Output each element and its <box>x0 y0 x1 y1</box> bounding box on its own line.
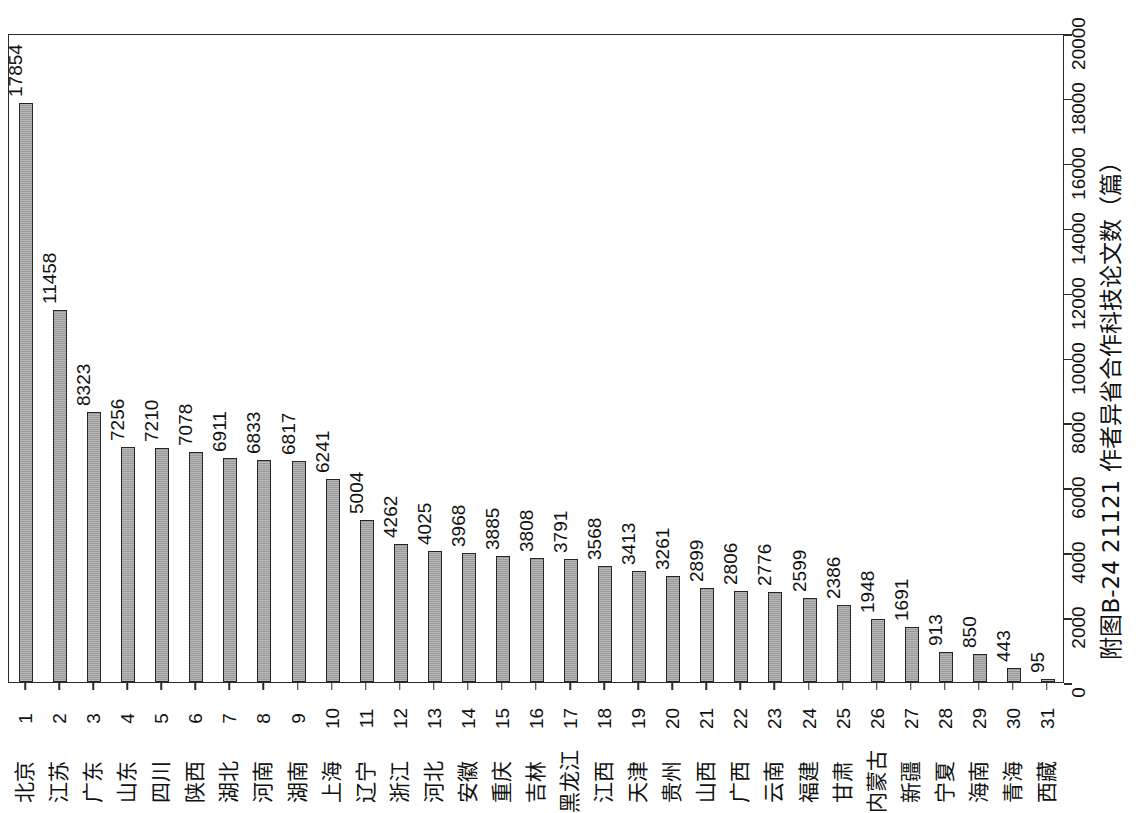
category-tick-group: 19天津 <box>621 683 655 809</box>
bar[interactable] <box>19 103 33 682</box>
bar[interactable] <box>326 479 340 682</box>
category-tick <box>126 683 128 690</box>
category-tick <box>876 683 878 690</box>
bar[interactable] <box>973 654 987 682</box>
category-tick <box>672 683 674 690</box>
category-tick <box>774 683 776 690</box>
category-rank-label: 20 <box>663 708 682 729</box>
category-name-label: 河北 <box>423 761 444 803</box>
bar[interactable] <box>53 310 67 682</box>
category-tick <box>1046 683 1048 690</box>
category-tick <box>467 683 469 690</box>
category-rank-label: 21 <box>697 708 716 729</box>
bar[interactable] <box>394 544 408 682</box>
bar-slot: 95 <box>1031 35 1065 682</box>
bar[interactable] <box>87 412 101 682</box>
bar-slot: 850 <box>963 35 997 682</box>
category-rank-label: 16 <box>526 708 545 729</box>
bar-slot: 3968 <box>452 35 486 682</box>
category-tick-group: 23云南 <box>757 683 791 809</box>
bar-slot: 6911 <box>213 35 247 682</box>
category-tick-group: 14安徽 <box>451 683 485 809</box>
bar[interactable] <box>257 460 271 682</box>
figure-caption: 附图B-24 21121 作者异省合作科技论文数（篇） <box>1086 0 1136 809</box>
category-tick <box>297 683 299 690</box>
value-tick-label: 6000 <box>1069 477 1088 519</box>
value-tick-label: 8000 <box>1069 412 1088 454</box>
category-tick-group: 27新疆 <box>894 683 928 809</box>
bar[interactable] <box>1041 679 1055 682</box>
category-tick-group: 22广西 <box>723 683 757 809</box>
category-rank-label: 12 <box>390 708 409 729</box>
bar[interactable] <box>768 592 782 682</box>
bar[interactable] <box>803 598 817 682</box>
bar[interactable] <box>734 591 748 682</box>
bar-slot: 3885 <box>486 35 520 682</box>
bar[interactable] <box>905 627 919 682</box>
bar-slot: 3808 <box>520 35 554 682</box>
bar-series: 1785411458832372567210707869116833681762… <box>9 35 1063 682</box>
category-name-label: 青海 <box>1002 761 1023 803</box>
category-rank-label: 6 <box>186 713 205 724</box>
category-rank-label: 3 <box>84 713 103 724</box>
category-name-label: 甘肃 <box>832 761 853 803</box>
category-tick <box>603 683 605 690</box>
category-tick <box>706 683 708 690</box>
category-tick <box>92 683 94 690</box>
category-name-label: 宁夏 <box>934 761 955 803</box>
category-name-label: 浙江 <box>389 761 410 803</box>
category-tick <box>842 683 844 690</box>
category-name-label: 江西 <box>594 761 615 803</box>
bar-slot: 2776 <box>758 35 792 682</box>
category-name-label: 四川 <box>151 761 172 803</box>
bar-slot: 2599 <box>792 35 826 682</box>
bar-slot: 3261 <box>656 35 690 682</box>
category-rank-label: 31 <box>1037 708 1056 729</box>
bar[interactable] <box>121 447 135 682</box>
bar[interactable] <box>155 448 169 682</box>
bar[interactable] <box>1007 668 1021 682</box>
bar[interactable] <box>530 558 544 682</box>
bar[interactable] <box>428 551 442 682</box>
category-tick-group: 28宁夏 <box>928 683 962 809</box>
category-rank-label: 28 <box>935 708 954 729</box>
bar[interactable] <box>292 461 306 682</box>
category-tick <box>740 683 742 690</box>
category-name-label: 海南 <box>968 761 989 803</box>
category-tick <box>1012 683 1014 690</box>
bar[interactable] <box>939 652 953 682</box>
category-name-label: 北京 <box>15 761 36 803</box>
category-tick <box>331 683 333 690</box>
bar[interactable] <box>223 458 237 682</box>
bar[interactable] <box>360 520 374 682</box>
category-tick-group: 13河北 <box>417 683 451 809</box>
category-rank-label: 22 <box>731 708 750 729</box>
bar-slot: 4262 <box>384 35 418 682</box>
bar[interactable] <box>462 553 476 682</box>
category-rank-label: 18 <box>595 708 614 729</box>
category-name-label: 新疆 <box>900 761 921 803</box>
bar[interactable] <box>700 588 714 682</box>
bar[interactable] <box>496 556 510 682</box>
bar[interactable] <box>598 566 612 682</box>
category-rank-label: 27 <box>901 708 920 729</box>
category-name-label: 广西 <box>730 761 751 803</box>
category-name-label: 广东 <box>83 761 104 803</box>
category-tick-group: 18江西 <box>587 683 621 809</box>
bar[interactable] <box>837 605 851 682</box>
category-name-label: 黑龙江 <box>560 750 581 813</box>
category-tick <box>365 683 367 690</box>
category-rank-label: 10 <box>322 708 341 729</box>
bar[interactable] <box>632 571 646 682</box>
category-rank-label: 1 <box>16 713 35 724</box>
bar[interactable] <box>189 452 203 682</box>
value-tick-label: 2000 <box>1069 606 1088 648</box>
bar[interactable] <box>871 619 885 682</box>
bar[interactable] <box>564 559 578 682</box>
bar-slot: 443 <box>997 35 1031 682</box>
bar[interactable] <box>666 576 680 682</box>
category-name-label: 江苏 <box>49 761 70 803</box>
bar-slot: 6817 <box>282 35 316 682</box>
category-tick <box>161 683 163 690</box>
category-name-label: 山西 <box>696 761 717 803</box>
